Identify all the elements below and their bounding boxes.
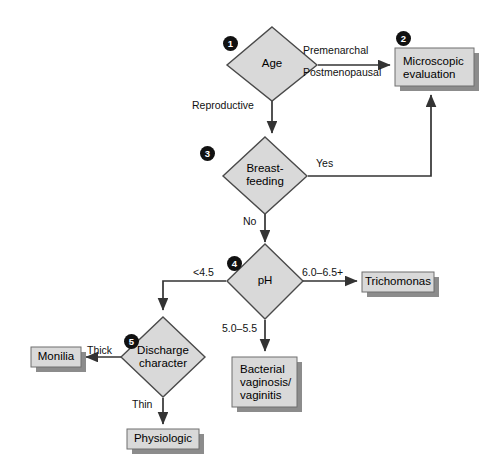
node-ph xyxy=(227,244,303,319)
edge-ph-to-discharge xyxy=(163,281,226,310)
edge-label-yes: Yes xyxy=(316,157,333,169)
edge-label-postmenopausal: Postmenopausal xyxy=(303,66,381,78)
flowchart-diagram: Age Microscopic evaluation Breast- feedi… xyxy=(0,0,491,471)
node-trichomonas xyxy=(362,272,439,297)
step-badge-2: 2 xyxy=(396,31,411,46)
step-badge-5: 5 xyxy=(124,334,139,349)
node-bacterial-vaginosis xyxy=(232,357,302,412)
edge-label-ph-6-0-6-5: 6.0–6.5+ xyxy=(302,266,343,278)
edge-label-premenarchal: Premenarchal xyxy=(303,44,368,56)
edge-label-ph-below-4-5: <4.5 xyxy=(193,266,214,278)
edge-label-thin: Thin xyxy=(132,398,152,410)
node-age xyxy=(227,27,317,101)
node-breastfeeding xyxy=(223,137,307,214)
node-physiologic xyxy=(127,429,204,454)
edge-label-no: No xyxy=(243,215,256,227)
edge-label-ph-5-0-5-5: 5.0–5.5 xyxy=(222,322,257,334)
edge-label-reproductive: Reproductive xyxy=(192,99,254,111)
node-discharge-character xyxy=(121,317,205,397)
flowchart-canvas xyxy=(0,0,491,471)
step-badge-4: 4 xyxy=(227,256,242,271)
step-badge-3: 3 xyxy=(200,146,215,161)
edge-label-thick: Thick xyxy=(87,344,112,356)
node-microscopic-evaluation xyxy=(395,48,479,91)
step-badge-1: 1 xyxy=(223,36,238,51)
node-monilia xyxy=(31,347,86,372)
